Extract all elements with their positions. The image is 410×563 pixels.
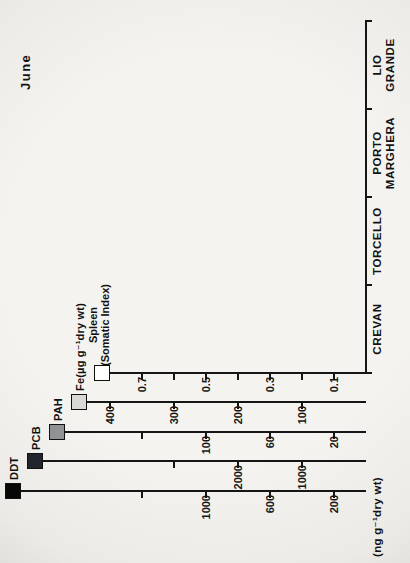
y-axis-tick	[173, 462, 175, 468]
legend-swatch-pcb	[27, 453, 43, 469]
category-label-porto-marghera: PORTO MARGHERA	[371, 109, 397, 197]
y-axis-tick	[237, 374, 239, 380]
y-axis-tick-label: 2000	[232, 465, 245, 493]
y-axis-tick-label: 600	[264, 495, 277, 523]
legend-label-pcb: PCB	[30, 426, 42, 450]
y-axis-tick-label: 1000	[200, 495, 213, 523]
y-axis-tick-label: 200	[328, 495, 341, 523]
legend-swatch-ddt	[5, 483, 21, 499]
y-axis-tick	[301, 374, 303, 380]
y-axis-tick-label: 400	[104, 406, 117, 434]
legend-swatch-fe	[71, 394, 87, 410]
category-label-lio-grande: LIO GRANDE	[371, 21, 397, 109]
y-axis-pcb	[43, 460, 366, 462]
category-label-torcello: TORCELLO	[371, 197, 384, 285]
y-axis-pah	[65, 431, 366, 433]
category-label-crevan: CREVAN	[371, 285, 384, 373]
y-axis-fe	[87, 401, 366, 403]
legend-label-spleen: Spleen (Somatic Index)	[87, 281, 111, 369]
y-axis-tick-label: 300	[168, 406, 181, 434]
legend-swatch-pah	[49, 424, 65, 440]
legend-label-pah: PAH	[52, 398, 64, 421]
chart-title: June	[18, 54, 33, 90]
y-axis-tick	[173, 374, 175, 380]
y-axis-tick	[141, 492, 143, 498]
y-axis-tick-label: 200	[232, 406, 245, 434]
y-axis-tick	[141, 433, 143, 439]
legend-label-fe: Fe(µg g⁻¹dry wt)	[74, 303, 87, 391]
y-axis-ddt	[21, 490, 366, 492]
y-units-label: (ng g⁻¹dry wt)	[370, 477, 384, 557]
y-axis-tick-label: 100	[296, 406, 309, 434]
legend-label-ddt: DDT	[8, 457, 20, 480]
y-axis-tick-label: 1000	[296, 465, 309, 493]
scanned-figure-page: June (ng g⁻¹dry wt) CREVANTORCELLOPORTO …	[0, 0, 410, 563]
bar-chart: June (ng g⁻¹dry wt) CREVANTORCELLOPORTO …	[0, 0, 410, 563]
